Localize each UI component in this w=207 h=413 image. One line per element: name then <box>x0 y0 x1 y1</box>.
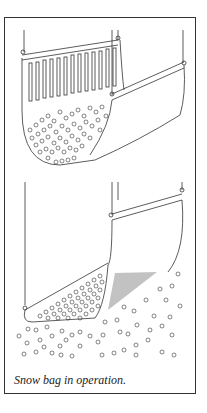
snowballs-top <box>28 105 108 164</box>
snow-bag-illustration <box>0 0 207 413</box>
top-panel <box>21 30 186 165</box>
figure-caption: Snow bag in operation. <box>14 373 126 388</box>
bottom-panel <box>17 182 184 358</box>
mesh-bottom <box>108 272 157 310</box>
slots <box>29 48 116 101</box>
